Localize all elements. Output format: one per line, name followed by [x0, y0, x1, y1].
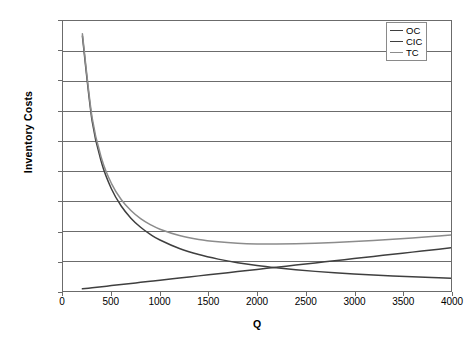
x-tick-mark: [403, 292, 404, 296]
legend-swatch-tc-icon: [390, 52, 403, 53]
legend-item-oc[interactable]: OC: [390, 25, 422, 36]
x-tick-mark: [306, 292, 307, 296]
series-line-oc: [82, 36, 451, 278]
x-tick-mark: [452, 292, 453, 296]
y-tick-mark: [58, 111, 62, 112]
x-axis-title: Q: [62, 318, 452, 330]
y-tick-mark: [58, 201, 62, 202]
y-tick-mark: [58, 50, 62, 51]
series-line-tc: [82, 34, 451, 244]
x-tick-mark: [355, 292, 356, 296]
legend-swatch-oc-icon: [390, 30, 403, 31]
y-tick-mark: [58, 80, 62, 81]
y-axis-title: Inventory Costs: [22, 62, 34, 202]
y-tick-mark: [58, 141, 62, 142]
y-tick-mark: [58, 232, 62, 233]
legend-label: OC: [406, 25, 420, 36]
x-tick-mark: [111, 292, 112, 296]
legend-item-tc[interactable]: TC: [390, 47, 422, 58]
legend-swatch-cic-icon: [390, 41, 403, 42]
data-series-layer: [63, 21, 451, 291]
legend-item-cic[interactable]: CIC: [390, 36, 422, 47]
x-tick-mark: [62, 292, 63, 296]
x-tick-mark: [208, 292, 209, 296]
x-tick-mark: [160, 292, 161, 296]
y-tick-mark: [58, 171, 62, 172]
legend-label: TC: [406, 47, 419, 58]
x-tick-label: 4000: [422, 296, 468, 307]
chart-legend[interactable]: OCCICTC: [386, 22, 427, 61]
y-tick-mark: [58, 262, 62, 263]
legend-label: CIC: [406, 36, 422, 47]
y-tick-mark: [58, 20, 62, 21]
series-line-cic: [82, 248, 451, 289]
x-tick-mark: [257, 292, 258, 296]
